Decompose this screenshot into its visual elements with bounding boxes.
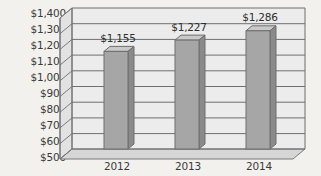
bar-2012[interactable] <box>104 46 134 149</box>
plot-left-wall <box>60 8 72 159</box>
bar-side-face <box>270 26 276 149</box>
plot-floor <box>60 149 305 159</box>
bar-front-face <box>104 51 128 149</box>
bar-value-label-2014: $1,286 <box>230 12 290 23</box>
bar-front-face <box>246 31 270 149</box>
x-axis-label-2013: 2013 <box>160 161 216 172</box>
bar-2013[interactable] <box>175 35 205 149</box>
bar-front-face <box>175 40 199 149</box>
bar-2014[interactable] <box>246 26 276 149</box>
bar-value-label-2013: $1,227 <box>159 22 219 33</box>
bar-side-face <box>128 46 134 149</box>
bar-chart: $1,400 $1,300 $1,200 $1,100 $1,000 $900 … <box>0 0 321 176</box>
bar-side-face <box>199 35 205 149</box>
x-axis-label-2014: 2014 <box>231 161 287 172</box>
bar-value-label-2012: $1,155 <box>88 33 148 44</box>
x-axis-label-2012: 2012 <box>89 161 145 172</box>
